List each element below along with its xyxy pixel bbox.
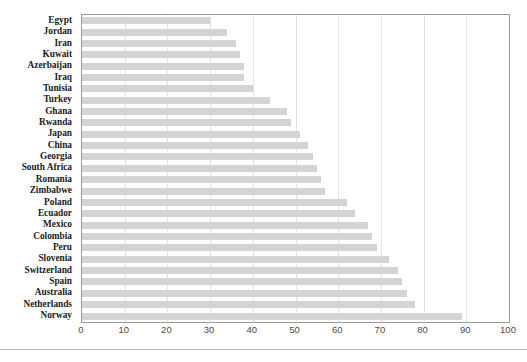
category-label: Romania (0, 175, 76, 183)
category-label: Poland (0, 198, 76, 206)
value-tick-label: 100 (500, 324, 516, 335)
footer-divider (0, 349, 527, 350)
bar-row (82, 49, 509, 60)
bar (82, 29, 227, 36)
bar-row (82, 231, 509, 242)
bar (82, 40, 236, 47)
category-label: Georgia (0, 152, 76, 160)
bar (82, 142, 308, 149)
category-label: Colombia (0, 232, 76, 240)
value-tick-label: 80 (417, 324, 428, 335)
bar (82, 74, 244, 81)
bar-row (82, 117, 509, 128)
bar-row (82, 106, 509, 117)
bar-row (82, 174, 509, 185)
bar (82, 267, 398, 274)
value-tick-label: 10 (118, 324, 129, 335)
bar-row (82, 197, 509, 208)
category-label: Norway (0, 311, 76, 319)
bar-row (82, 310, 509, 321)
value-tick-label: 0 (78, 324, 83, 335)
bar-row (82, 276, 509, 287)
category-label: Jordan (0, 27, 76, 35)
bar-row (82, 254, 509, 265)
bar-row (82, 95, 509, 106)
bar (82, 188, 325, 195)
bar-row (82, 26, 509, 37)
category-label: Mexico (0, 220, 76, 228)
category-label: Peru (0, 243, 76, 251)
category-label: Azerbaijan (0, 61, 76, 69)
bar-row (82, 151, 509, 162)
bar (82, 301, 415, 308)
value-tick-label: 90 (460, 324, 471, 335)
category-label: Switzerland (0, 266, 76, 274)
bar-row (82, 208, 509, 219)
bar-row (82, 83, 509, 94)
bar-row (82, 265, 509, 276)
bar (82, 51, 240, 58)
bar (82, 199, 347, 206)
bar (82, 278, 402, 285)
category-label: Egypt (0, 16, 76, 24)
bar-row (82, 72, 509, 83)
category-label: Zimbabwe (0, 186, 76, 194)
category-label: Spain (0, 277, 76, 285)
category-label: Japan (0, 129, 76, 137)
plot-area (81, 14, 510, 323)
bar (82, 63, 244, 70)
category-label: Australia (0, 288, 76, 296)
category-label: Ghana (0, 107, 76, 115)
value-tick-label: 60 (332, 324, 343, 335)
category-label: Slovenia (0, 254, 76, 262)
bar-row (82, 185, 509, 196)
category-label: Kuwait (0, 50, 76, 58)
value-axis: 0102030405060708090100 (81, 324, 508, 338)
category-label: Tunisia (0, 84, 76, 92)
category-label: South Africa (0, 163, 76, 171)
bar-row (82, 140, 509, 151)
bar (82, 233, 372, 240)
value-tick-label: 20 (161, 324, 172, 335)
bar (82, 97, 270, 104)
bar (82, 244, 377, 251)
bar (82, 108, 287, 115)
category-label: Iraq (0, 73, 76, 81)
value-tick-label: 70 (375, 324, 386, 335)
bar-row (82, 38, 509, 49)
bar (82, 85, 253, 92)
bar-row (82, 219, 509, 230)
category-label: Rwanda (0, 118, 76, 126)
bar (82, 119, 291, 126)
bar (82, 290, 407, 297)
category-label: Netherlands (0, 300, 76, 308)
bar (82, 153, 313, 160)
bar (82, 256, 389, 263)
bar (82, 222, 368, 229)
chart-title (0, 0, 527, 2)
bar (82, 131, 300, 138)
bar-row (82, 60, 509, 71)
category-label: Turkey (0, 95, 76, 103)
category-label: Iran (0, 39, 76, 47)
value-tick-label: 40 (247, 324, 258, 335)
bar-chart: EgyptJordanIranKuwaitAzerbaijanIraqTunis… (0, 0, 527, 362)
bar-series (82, 15, 509, 322)
bar (82, 210, 355, 217)
bar-row (82, 163, 509, 174)
bar-row (82, 129, 509, 140)
bar-row (82, 299, 509, 310)
bar-row (82, 15, 509, 26)
value-tick-label: 30 (204, 324, 215, 335)
bar-row (82, 242, 509, 253)
category-axis: EgyptJordanIranKuwaitAzerbaijanIraqTunis… (0, 16, 76, 319)
category-label: China (0, 141, 76, 149)
bar (82, 17, 210, 24)
bar-row (82, 288, 509, 299)
category-label: Ecuador (0, 209, 76, 217)
bar (82, 313, 462, 320)
value-tick-label: 50 (289, 324, 300, 335)
bar (82, 165, 317, 172)
bar (82, 176, 321, 183)
